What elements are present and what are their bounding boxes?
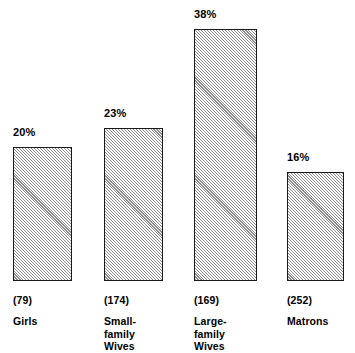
bar-count-label: (169) [194, 294, 219, 306]
bar-large-family-wives [194, 29, 257, 281]
bar-category-label: Matrons [287, 315, 329, 328]
bar-count-label: (252) [287, 294, 312, 306]
bar-category-label: Girls [13, 315, 37, 328]
bar-matrons [287, 172, 344, 281]
bar-small-family-wives [104, 128, 163, 281]
bar-value-label: 23% [104, 107, 126, 119]
bar-count-label: (174) [104, 294, 129, 306]
bar-value-label: 38% [194, 8, 216, 20]
bar-girls [13, 147, 72, 281]
bar-count-label: (79) [13, 294, 32, 306]
bar-value-label: 16% [287, 151, 309, 163]
bar-category-label: Small-family Wives [104, 315, 136, 353]
bar-value-label: 20% [13, 126, 35, 138]
bar-category-label: Large-family Wives [194, 315, 227, 353]
